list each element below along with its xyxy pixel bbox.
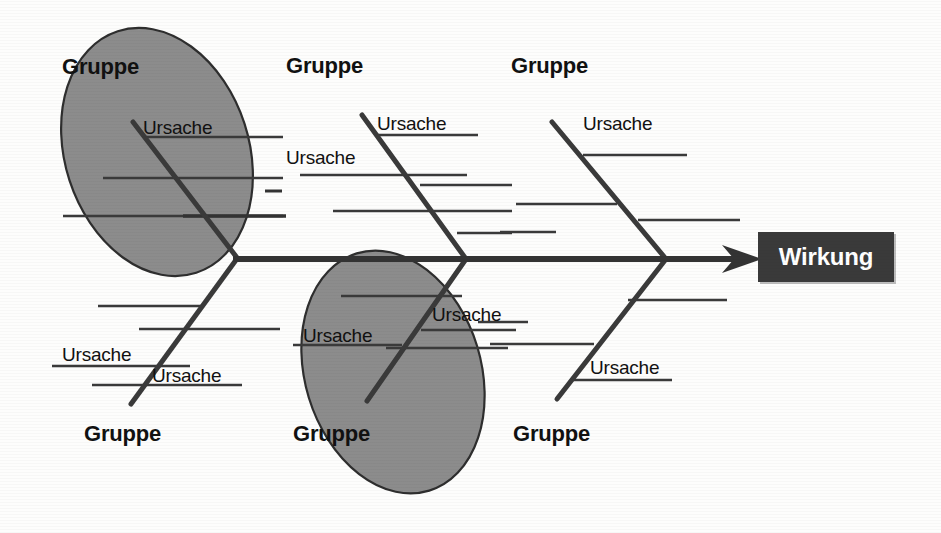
highlight-ellipse-lower-middle [273, 228, 514, 517]
cause-label-upper-2-a: Ursache [377, 114, 446, 133]
cause-label-lower-2-b: Ursache [432, 305, 501, 324]
group-label-lower-1: Gruppe [84, 423, 161, 445]
cause-label-upper-3-a: Ursache [583, 114, 652, 133]
cause-label-upper-1-a: Ursache [143, 118, 212, 137]
branch-line-upper-3 [552, 122, 666, 259]
effect-box: Wirkung [758, 232, 894, 282]
cause-label-lower-2-a: Ursache [303, 326, 372, 345]
cause-label-upper-2-b: Ursache [286, 148, 355, 167]
group-label-upper-2: Gruppe [286, 55, 363, 77]
cause-label-lower-1-a: Ursache [62, 345, 131, 364]
group-label-upper-1: Gruppe [62, 56, 139, 78]
group-label-lower-2: Gruppe [293, 423, 370, 445]
sub-cause-lines-upper-3 [500, 155, 740, 232]
group-label-upper-3: Gruppe [511, 55, 588, 77]
ishikawa-diagram-canvas: Gruppe Gruppe Gruppe Gruppe Gruppe Grupp… [0, 0, 941, 533]
branch-line-lower-3 [557, 259, 666, 399]
branch-line-upper-2 [362, 115, 466, 259]
group-label-lower-3: Gruppe [513, 423, 590, 445]
spine-arrow [233, 245, 762, 273]
cause-label-lower-1-b: Ursache [152, 366, 221, 385]
cause-label-lower-3-a: Ursache [590, 358, 659, 377]
